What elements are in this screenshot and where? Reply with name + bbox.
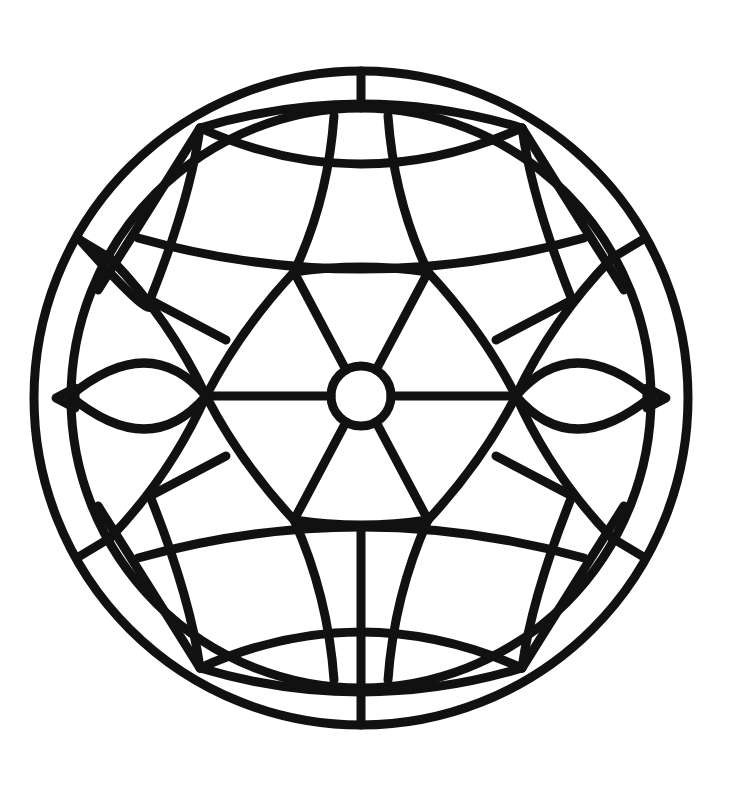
center-circle xyxy=(331,366,391,426)
mandala-drawing xyxy=(0,0,752,796)
mandala-lines xyxy=(34,71,688,725)
